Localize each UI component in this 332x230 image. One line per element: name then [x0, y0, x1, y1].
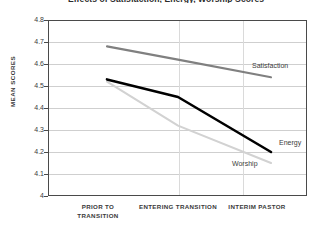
- x-tick-label-interim-pastor: INTERIM PASTOR: [209, 203, 305, 212]
- chart-container: Effects of Satisfaction, Energy, Worship…: [0, 0, 332, 230]
- x-tick-label-line1: ENTERING TRANSITION: [139, 203, 217, 210]
- series-line-worship: [107, 82, 271, 163]
- series-line-satisfaction: [107, 46, 271, 77]
- x-tick-label-line1: INTERIM PASTOR: [228, 203, 285, 210]
- series-label-energy: Energy: [279, 139, 301, 146]
- x-tick-label-line1: PRIOR TO: [82, 203, 115, 210]
- series-layer: [0, 0, 332, 230]
- x-tick-label-line2: TRANSITION: [77, 212, 118, 219]
- series-label-worship: Worship: [232, 160, 258, 167]
- series-line-energy: [107, 79, 271, 152]
- series-label-satisfaction: Satisfaction: [252, 62, 288, 69]
